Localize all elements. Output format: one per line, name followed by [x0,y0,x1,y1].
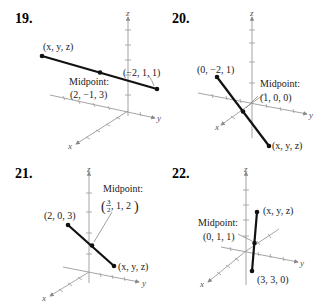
open-paren: ( [101,199,106,215]
midpoint-exercises-figure: 19. z y x (x, y, z) (−2, 1, [0,0,320,307]
y-axis [221,247,298,262]
x-axis [208,251,246,282]
problem-20: 20. z y x (0, −2, 1) Midpoint: [172,8,313,152]
endpoint-dot [40,54,45,59]
y-axis-label: y [156,113,161,123]
z-axis-label: z [243,164,248,174]
endpoint-label: (x, y, z) [263,205,293,217]
x-axis-label: x [67,141,72,151]
midpoint-title: Midpoint: [198,217,238,228]
endpoint-dot [255,210,260,215]
x-axis [76,111,128,144]
x-axis-back [246,229,279,251]
midpoint-dot [252,241,257,246]
endpoint-dot [112,264,117,269]
endpoint-label: (−2, 1, 1) [123,67,160,79]
label-leader-line [238,234,252,241]
z-axis-label: z [249,8,254,18]
problem-21: 21. z y x Midpoint: ( 3 [15,164,148,303]
midpoint-value: ( 3 2 , 1, 2 ) [101,198,139,215]
endpoint-label: (0, −2, 1) [197,64,234,76]
endpoint-label: (3, 3, 0) [257,274,289,286]
midpoint-title: Midpoint: [103,183,143,194]
problem-number: 21. [15,166,33,181]
x-axis-label: x [41,293,46,303]
midpoint-value-rest: , 1, 2 [111,200,131,211]
midpoint-dot [90,243,95,248]
midpoint-dot [241,109,246,114]
endpoint-label: (x, y, z) [272,140,302,152]
midpoint-value: (1, 0, 0) [260,92,292,104]
endpoint-dot [250,269,255,274]
y-axis-label: y [299,258,304,268]
problem-22: 22. z y x (x, y, z) Midpoint: [172,164,304,289]
midpoint-title: Midpoint: [260,78,300,89]
endpoint-dot [215,75,220,80]
z-axis-label: z [86,164,91,174]
x-axis-label: x [214,122,219,132]
label-leader-line [94,212,112,242]
midpoint-value: (2, −1, 3) [70,89,107,101]
endpoint-label: (x, y, z) [43,41,73,53]
y-axis-label: y [308,110,313,120]
endpoint-label: (x, y, z) [118,261,148,273]
endpoint-dot [66,223,71,228]
midpoint-dot [98,70,103,75]
midpoint-title: Midpoint: [69,76,109,87]
problem-number: 22. [172,166,190,181]
problem-number: 19. [15,11,33,26]
x-axis-label: x [199,279,204,289]
endpoint-label: (2, 0, 3) [44,210,76,222]
y-axis-label: y [141,278,146,288]
problem-number: 20. [172,11,190,26]
endpoint-dot [267,144,272,149]
endpoint-dot [155,87,160,92]
problem-19: 19. z y x (x, y, z) (−2, 1, [15,8,161,151]
close-paren: ) [134,199,139,215]
midpoint-value: (0, 1, 1) [203,231,235,243]
z-axis-label: z [125,8,130,18]
